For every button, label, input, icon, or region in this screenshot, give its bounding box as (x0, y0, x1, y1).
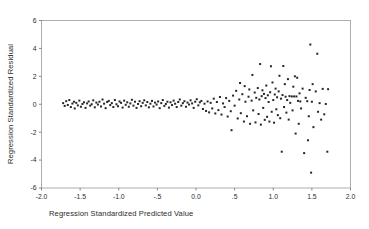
data-point (156, 104, 158, 106)
data-point (262, 107, 264, 109)
data-point (295, 95, 297, 97)
data-point (188, 104, 190, 106)
data-point (295, 133, 297, 135)
data-point (131, 99, 133, 101)
data-point (239, 82, 241, 84)
data-point (160, 102, 162, 104)
data-point (263, 93, 265, 95)
data-point (270, 65, 272, 67)
data-point (268, 121, 270, 123)
data-point (278, 75, 280, 77)
data-point (183, 100, 185, 102)
data-point (80, 106, 82, 108)
data-point (177, 101, 179, 103)
data-point (252, 109, 254, 111)
data-point (289, 102, 291, 104)
data-point (205, 110, 207, 112)
data-point (210, 102, 212, 104)
data-point (88, 100, 90, 102)
data-point (217, 109, 219, 111)
data-point (77, 104, 79, 106)
data-point (163, 105, 165, 107)
data-point (260, 124, 262, 126)
data-point (234, 105, 236, 107)
data-point (112, 106, 114, 108)
data-point (145, 104, 147, 106)
data-point (200, 100, 202, 102)
data-point (230, 110, 232, 112)
data-point (179, 99, 181, 101)
data-point (207, 100, 209, 102)
data-point (196, 98, 198, 100)
data-point (246, 115, 248, 117)
data-point (105, 107, 107, 109)
data-point (190, 99, 192, 101)
data-point (272, 99, 274, 101)
data-point (148, 106, 150, 108)
data-point (111, 102, 113, 104)
x-tick-label: -1.0 (113, 193, 125, 200)
data-point (251, 74, 253, 76)
data-point (268, 101, 270, 103)
data-point (173, 100, 175, 102)
data-point (294, 75, 296, 77)
x-tick-label: 0.0 (191, 193, 201, 200)
data-point (62, 102, 64, 104)
data-point (255, 97, 257, 99)
data-point (284, 83, 286, 85)
data-point (98, 101, 100, 103)
data-point (258, 113, 260, 115)
data-point (74, 107, 76, 109)
data-point (302, 88, 304, 90)
data-point (122, 107, 124, 109)
data-point (254, 92, 256, 94)
data-point (288, 95, 290, 97)
data-point (312, 83, 314, 85)
data-point (85, 107, 87, 109)
data-point (303, 152, 305, 154)
data-point (153, 105, 155, 107)
data-point (275, 88, 277, 90)
data-point (325, 103, 327, 105)
x-tick-label: 1.0 (269, 193, 279, 200)
data-point (275, 108, 277, 110)
data-point (108, 100, 110, 102)
data-point (292, 109, 294, 111)
y-tick-label: 0 (33, 101, 37, 108)
data-point (311, 101, 313, 103)
data-point (174, 103, 176, 105)
y-tick-label: -6 (30, 184, 36, 191)
data-point (159, 107, 161, 109)
data-point (92, 99, 94, 101)
data-point (274, 93, 276, 95)
data-point (323, 113, 325, 115)
data-point (225, 97, 227, 99)
residual-scatter-plot: -2.0-1.5-1.0-.50.0.51.01.52.0 -6-4-20246… (0, 0, 369, 229)
data-point (73, 101, 75, 103)
data-point (293, 95, 295, 97)
data-point (315, 90, 317, 92)
data-point (139, 100, 141, 102)
data-point (285, 96, 287, 98)
data-point (235, 90, 237, 92)
data-point (241, 93, 243, 95)
data-point (278, 90, 280, 92)
data-point (168, 107, 170, 109)
data-point (285, 112, 287, 114)
data-point (162, 99, 164, 101)
data-point (151, 100, 153, 102)
data-point (231, 129, 233, 131)
data-point (120, 102, 122, 104)
data-point (180, 105, 182, 107)
data-point (100, 105, 102, 107)
data-point (273, 122, 275, 124)
data-point (102, 99, 104, 101)
data-point (204, 103, 206, 105)
data-point (208, 111, 210, 113)
data-point (237, 117, 239, 119)
data-point (322, 88, 324, 90)
data-point (219, 96, 221, 98)
data-point (281, 151, 283, 153)
data-point (157, 100, 159, 102)
data-point (300, 107, 302, 109)
